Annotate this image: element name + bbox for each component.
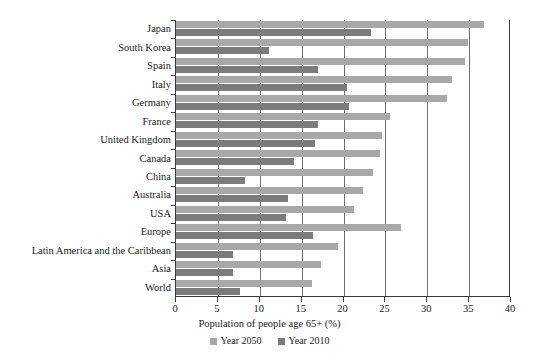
- x-tick: [217, 297, 218, 302]
- bar-year-2010: [176, 177, 245, 184]
- category-label: Asia: [152, 263, 171, 274]
- bar-year-2010: [176, 288, 240, 295]
- bar-group: [176, 131, 509, 149]
- x-tick: [426, 297, 427, 302]
- bar-group: [176, 94, 509, 112]
- bar-year-2050: [176, 187, 363, 194]
- category-label: France: [142, 116, 171, 127]
- category-label: World: [145, 282, 171, 293]
- x-tick-label: 5: [202, 303, 232, 315]
- bar-year-2050: [176, 206, 354, 213]
- category-label: Europe: [141, 226, 171, 237]
- bar-year-2050: [176, 261, 321, 268]
- x-tick: [384, 297, 385, 302]
- x-tick-label: 25: [369, 303, 399, 315]
- bar-year-2010: [176, 29, 371, 36]
- bar-year-2010: [176, 195, 288, 202]
- bar-group: [176, 168, 509, 186]
- category-axis: JapanSouth KoreaSpainItalyGermanyFranceU…: [0, 20, 171, 297]
- bar-group: [176, 279, 509, 297]
- category-label: USA: [150, 208, 171, 219]
- x-tick: [259, 297, 260, 302]
- x-tick-label: 0: [160, 303, 190, 315]
- bar-year-2010: [176, 47, 269, 54]
- bar-year-2050: [176, 95, 447, 102]
- bar-year-2050: [176, 39, 468, 46]
- category-label: United Kingdom: [100, 134, 171, 145]
- bar-group: [176, 38, 509, 56]
- bar-group: [176, 242, 509, 260]
- bar-year-2010: [176, 84, 347, 91]
- bar-year-2050: [176, 113, 390, 120]
- bar-group: [176, 223, 509, 241]
- bar-year-2050: [176, 169, 373, 176]
- bar-group: [176, 57, 509, 75]
- bar-year-2010: [176, 214, 286, 221]
- category-label: South Korea: [118, 42, 171, 53]
- bar-year-2050: [176, 280, 312, 287]
- bar-year-2050: [176, 76, 452, 83]
- x-tick-label: 15: [286, 303, 316, 315]
- legend-swatch-icon: [210, 338, 217, 345]
- bar-year-2010: [176, 103, 349, 110]
- x-tick-label: 35: [453, 303, 483, 315]
- category-label: Japan: [147, 23, 171, 34]
- bar-year-2050: [176, 243, 338, 250]
- bar-chart: JapanSouth KoreaSpainItalyGermanyFranceU…: [0, 0, 539, 362]
- bar-year-2010: [176, 251, 233, 258]
- category-label: Latin America and the Caribbean: [32, 245, 171, 256]
- category-label: Australia: [133, 189, 172, 200]
- bar-group: [176, 186, 509, 204]
- bar-year-2010: [176, 66, 318, 73]
- x-axis-title: Population of people age 65+ (%): [0, 317, 539, 330]
- x-tick: [301, 297, 302, 302]
- bar-year-2050: [176, 21, 484, 28]
- category-label: Germany: [132, 97, 171, 108]
- bar-year-2010: [176, 269, 233, 276]
- bar-year-2010: [176, 121, 318, 128]
- legend-swatch-icon: [278, 338, 285, 345]
- bar-group: [176, 149, 509, 167]
- bar-year-2050: [176, 150, 380, 157]
- legend-item: Year 2050: [210, 335, 262, 347]
- bar-year-2010: [176, 140, 315, 147]
- bar-year-2010: [176, 232, 313, 239]
- x-tick-label: 20: [328, 303, 358, 315]
- x-tick-label: 10: [244, 303, 274, 315]
- bar-year-2050: [176, 224, 401, 231]
- bar-group: [176, 112, 509, 130]
- bar-rows: [176, 20, 509, 296]
- bar-group: [176, 205, 509, 223]
- bar-group: [176, 260, 509, 278]
- category-label: China: [146, 171, 171, 182]
- category-label: Canada: [140, 153, 172, 164]
- x-tick-label: 30: [411, 303, 441, 315]
- x-tick: [510, 297, 511, 302]
- x-tick: [343, 297, 344, 302]
- bar-year-2050: [176, 58, 465, 65]
- bar-group: [176, 20, 509, 38]
- category-label: Italy: [152, 79, 171, 90]
- x-tick: [175, 297, 176, 302]
- x-tick-label: 40: [495, 303, 525, 315]
- bar-year-2050: [176, 132, 382, 139]
- bar-group: [176, 75, 509, 93]
- x-tick: [468, 297, 469, 302]
- chart-legend: Year 2050Year 2010: [0, 335, 539, 347]
- legend-label: Year 2050: [221, 335, 262, 347]
- legend-item: Year 2010: [278, 335, 330, 347]
- plot-area: [175, 20, 510, 297]
- category-label: Spain: [147, 60, 171, 71]
- legend-label: Year 2010: [289, 335, 330, 347]
- bar-year-2010: [176, 158, 294, 165]
